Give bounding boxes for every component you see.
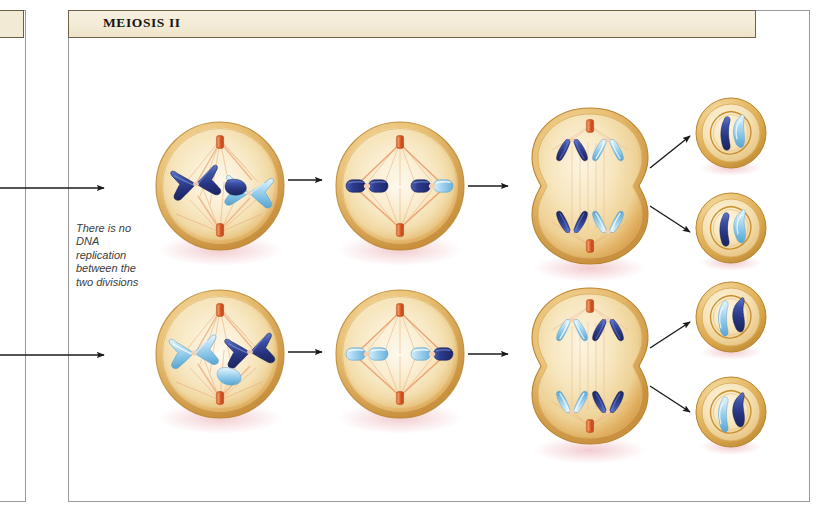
nuclear-envelope [711, 296, 751, 338]
centriole-top [586, 300, 593, 313]
centriole-bottom [396, 392, 403, 405]
meiosis-ii-artwork [0, 0, 823, 511]
arrow-to-daughter-cell-4 [650, 386, 690, 412]
arrow-to-daughter-cell-1 [650, 136, 690, 168]
row-lower-lineage [156, 282, 766, 464]
row-upper-lineage [156, 98, 766, 282]
cell-metaphase-ii-lower [336, 290, 464, 434]
cell-anaphase-ii-upper [532, 108, 648, 282]
arrow-to-daughter-cell-2 [650, 206, 690, 232]
haploid-daughter-cell-4 [696, 377, 766, 455]
arrow-to-daughter-cell-3 [650, 322, 690, 348]
cell-prophase-ii-upper [156, 122, 284, 266]
centriole-bottom [586, 240, 593, 253]
cell-metaphase-ii-upper [336, 122, 464, 266]
centriole-top [586, 120, 593, 133]
centriole-bottom [216, 392, 223, 405]
centriole-bottom [216, 224, 223, 237]
nuclear-envelope [711, 391, 751, 433]
centriole-top [216, 136, 223, 149]
centriole-bottom [396, 224, 403, 237]
centriole-top [396, 304, 403, 317]
haploid-daughter-cell-3 [696, 282, 766, 360]
cell-prophase-ii-lower [156, 290, 284, 434]
cell-anaphase-ii-lower [532, 288, 648, 464]
diagram-stage: MEIOSIS II There is no DNA replication b… [0, 0, 823, 511]
centriole-top [216, 304, 223, 317]
haploid-daughter-cell-1 [696, 98, 766, 176]
nuclear-envelope [711, 112, 751, 154]
centriole-top [396, 136, 403, 149]
haploid-daughter-cell-2 [696, 193, 766, 271]
centriole-bottom [586, 420, 593, 433]
